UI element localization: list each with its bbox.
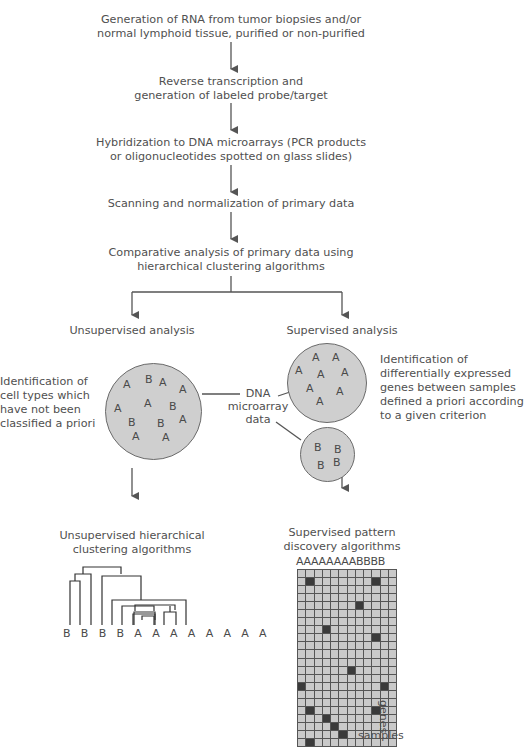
matrix-cell <box>372 650 379 657</box>
matrix-cell <box>381 586 388 593</box>
matrix-cell <box>306 723 313 730</box>
matrix-cell <box>306 610 313 617</box>
label-line: DNA <box>228 387 289 400</box>
sample-label: B <box>333 456 341 469</box>
matrix-cell <box>315 634 322 641</box>
step-1-line2: normal lymphoid tissue, purified or non-… <box>97 27 365 41</box>
matrix-cell <box>298 602 305 609</box>
matrix-cell <box>348 675 355 682</box>
matrix-cell <box>372 594 379 601</box>
matrix-cell <box>356 594 363 601</box>
sample-label: A <box>317 368 325 381</box>
matrix-cell <box>356 683 363 690</box>
algo-line: discovery algorithms <box>283 540 400 554</box>
matrix-cell <box>348 683 355 690</box>
matrix-cell <box>323 683 330 690</box>
matrix-cell <box>389 586 396 593</box>
matrix-cell <box>339 594 346 601</box>
matrix-cell <box>339 699 346 706</box>
label-line: data <box>228 413 289 426</box>
matrix-cell <box>298 650 305 657</box>
matrix-cell <box>381 618 388 625</box>
matrix-cell <box>315 739 322 746</box>
matrix-cell <box>306 731 313 738</box>
matrix-cell <box>356 634 363 641</box>
matrix-cell <box>306 650 313 657</box>
matrix-cell <box>323 594 330 601</box>
matrix-cell <box>323 634 330 641</box>
desc-line: Identification of <box>0 375 95 389</box>
matrix-cell <box>372 683 379 690</box>
matrix-cell <box>331 699 338 706</box>
matrix-cell <box>364 594 371 601</box>
matrix-cell <box>372 691 379 698</box>
matrix-cell <box>323 707 330 714</box>
step-4: Scanning and normalization of primary da… <box>108 197 355 211</box>
matrix-cell <box>339 586 346 593</box>
step-5: Comparative analysis of primary data usi… <box>108 246 353 274</box>
matrix-cell <box>298 659 305 666</box>
matrix-cell <box>381 578 388 585</box>
sample-label: A <box>144 397 152 410</box>
matrix-cell <box>331 618 338 625</box>
sample-label: B <box>145 373 153 386</box>
matrix-cell <box>348 739 355 746</box>
matrix-cell <box>339 578 346 585</box>
matrix-cell <box>348 602 355 609</box>
matrix-cell <box>364 699 371 706</box>
matrix-cell <box>348 699 355 706</box>
sample-label: A <box>179 383 187 396</box>
matrix-cell <box>389 667 396 674</box>
matrix-cell <box>348 642 355 649</box>
label-line: microarray <box>228 400 289 413</box>
sample-label: A <box>332 351 340 364</box>
matrix-cell <box>364 578 371 585</box>
matrix-cell <box>306 634 313 641</box>
sample-label: A <box>179 413 187 426</box>
matrix-cell <box>315 642 322 649</box>
matrix-cell <box>356 610 363 617</box>
matrix-cell <box>339 715 346 722</box>
sample-label: A <box>336 385 344 398</box>
matrix-cell <box>323 675 330 682</box>
matrix-cell <box>315 650 322 657</box>
matrix-cell <box>298 642 305 649</box>
desc-line: to a given criterion <box>380 409 524 423</box>
matrix-cell <box>364 675 371 682</box>
step-2-line2: generation of labeled probe/target <box>134 89 327 103</box>
matrix-cell <box>389 634 396 641</box>
matrix-cell <box>298 675 305 682</box>
matrix-cell <box>348 731 355 738</box>
matrix-cell <box>323 610 330 617</box>
sample-label: A <box>132 430 140 443</box>
algo-line: Supervised pattern <box>283 526 400 540</box>
algo-line: clustering algorithms <box>59 543 204 557</box>
matrix-cell <box>381 642 388 649</box>
matrix-cell <box>372 634 379 641</box>
matrix-cell <box>356 642 363 649</box>
sample-label: A <box>123 378 131 391</box>
dendrogram <box>70 567 186 625</box>
matrix-cell <box>389 610 396 617</box>
matrix-cell <box>356 675 363 682</box>
sample-label: B <box>169 400 177 413</box>
matrix-cell <box>364 570 371 577</box>
sample-label: A <box>316 395 324 408</box>
matrix-cell <box>389 618 396 625</box>
matrix-cell <box>372 570 379 577</box>
algo-line: Unsupervised hierarchical <box>59 529 204 543</box>
matrix-cell <box>381 659 388 666</box>
supervised-group-a-circle: A A A A A A A A <box>287 343 367 423</box>
matrix-cell <box>381 570 388 577</box>
matrix-cell <box>348 691 355 698</box>
matrix-cell <box>372 626 379 633</box>
matrix-cell <box>323 691 330 698</box>
supervised-algorithm: Supervised pattern discovery algorithms <box>283 526 400 554</box>
matrix-cell <box>339 570 346 577</box>
matrix-cell <box>331 578 338 585</box>
matrix-cell <box>331 650 338 657</box>
matrix-cell <box>323 650 330 657</box>
matrix-cell <box>348 586 355 593</box>
matrix-cell <box>323 667 330 674</box>
matrix-cell <box>298 683 305 690</box>
